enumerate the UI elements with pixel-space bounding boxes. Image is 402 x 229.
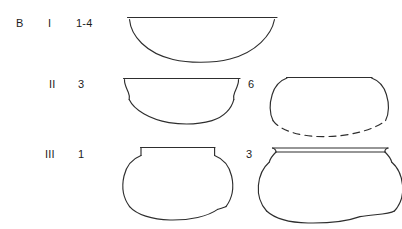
vessel-iii-left-body-right xyxy=(215,156,233,207)
vessel-ii-left-wall-right xyxy=(234,80,239,100)
pottery-typology-figure: B I 1-4 II 3 6 III 1 3 xyxy=(0,0,402,229)
vessel-ii-left xyxy=(124,79,241,124)
vessel-iii-right-rim-left-tip xyxy=(273,148,277,152)
vessel-iii-left-body-left xyxy=(123,156,141,207)
vessel-i-left xyxy=(128,18,278,63)
vessel-iii-right-base xyxy=(267,211,395,223)
vessel-iii-right-neck-right xyxy=(385,152,392,162)
vessel-ii-right-base-reconstructed xyxy=(273,121,386,137)
vessel-iii-right-body-right xyxy=(392,162,402,211)
vessel-ii-left-wall-left xyxy=(124,80,129,100)
vessel-iii-left-base xyxy=(130,207,226,220)
vessel-ii-right-wall-left xyxy=(270,78,287,121)
vessel-ii-right-wall-right xyxy=(372,78,389,121)
vessel-iii-right xyxy=(258,148,402,223)
vessel-iii-right-body-left xyxy=(258,162,269,211)
vessel-ii-left-base xyxy=(129,100,234,124)
vessel-iii-left xyxy=(123,148,233,221)
vessel-drawings xyxy=(0,0,402,229)
vessel-ii-right xyxy=(270,78,388,137)
vessel-i-left-body xyxy=(130,20,275,63)
vessel-iii-right-rim-right-tip xyxy=(385,148,388,152)
vessel-iii-right-neck-left xyxy=(269,152,276,162)
